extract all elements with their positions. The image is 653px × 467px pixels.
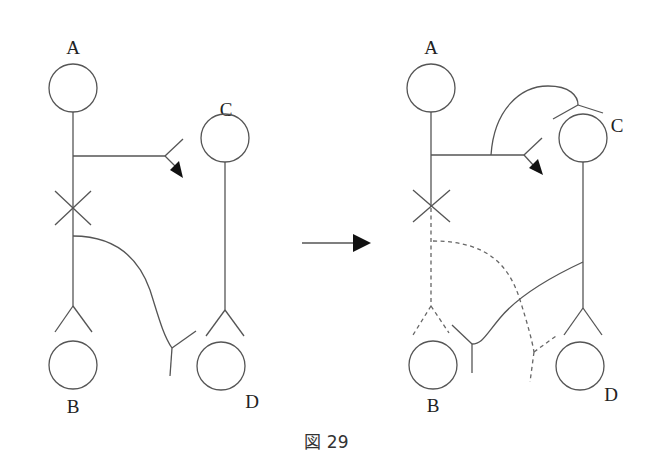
neuron-a-soma bbox=[407, 64, 455, 112]
neuron-d-soma bbox=[197, 342, 245, 390]
neuron-d-soma bbox=[556, 342, 604, 390]
neuron-b-soma bbox=[49, 341, 97, 389]
new-terminal-branch bbox=[452, 325, 472, 344]
terminal-d-left bbox=[564, 308, 583, 335]
label-d: D bbox=[604, 384, 618, 405]
arrowhead-icon bbox=[529, 159, 543, 175]
synapse-fork-upper bbox=[524, 138, 542, 155]
terminal-fork-stem bbox=[170, 348, 172, 376]
terminal-d-right bbox=[583, 308, 602, 335]
transition-arrow-icon bbox=[302, 234, 371, 252]
label-c: C bbox=[220, 99, 233, 120]
after-panel: A B C D bbox=[407, 37, 623, 416]
label-d: D bbox=[245, 391, 259, 412]
degenerated-terminal-b-right bbox=[431, 306, 449, 333]
label-c: C bbox=[611, 115, 624, 136]
terminal-b-left bbox=[55, 306, 73, 332]
degenerated-fork-stem bbox=[530, 352, 534, 382]
figure-caption: 図 29 bbox=[0, 428, 653, 453]
new-sprout-fork-right bbox=[578, 105, 603, 113]
degenerated-terminal-b-left bbox=[413, 306, 431, 335]
synapse-fork-upper bbox=[165, 139, 183, 156]
terminal-fork-branch bbox=[172, 331, 196, 348]
terminal-d-right bbox=[225, 310, 244, 336]
neuron-b-soma bbox=[409, 341, 457, 389]
label-a: A bbox=[424, 37, 438, 58]
terminal-d-left bbox=[206, 310, 225, 336]
degenerated-fork-branch bbox=[534, 336, 556, 352]
label-b: B bbox=[67, 396, 80, 417]
label-a: A bbox=[66, 37, 80, 58]
terminal-b-right bbox=[73, 306, 92, 332]
neuron-c-soma bbox=[559, 114, 607, 162]
neuron-a-soma bbox=[49, 64, 97, 112]
neuron-c-soma bbox=[201, 114, 249, 162]
collateral-curve bbox=[73, 236, 172, 348]
new-sprout-fork-left bbox=[553, 105, 578, 119]
neuron-diagram: A B C D A bbox=[0, 0, 653, 467]
before-panel: A B C D bbox=[49, 37, 259, 417]
label-b: B bbox=[427, 395, 440, 416]
degenerated-collateral bbox=[433, 241, 534, 352]
